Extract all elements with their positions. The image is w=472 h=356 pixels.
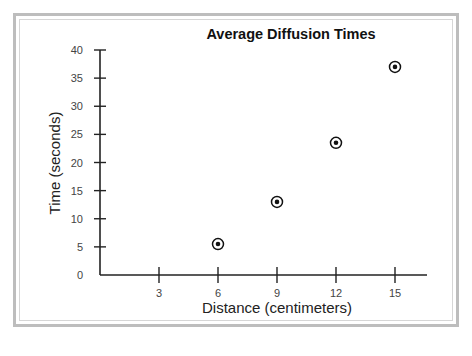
data-point-marker	[213, 239, 224, 250]
y-axis-label: Time (seconds)	[46, 112, 63, 215]
y-tick-label: 10	[71, 213, 83, 225]
x-tick-label: 3	[156, 287, 162, 299]
data-point-marker	[331, 137, 342, 148]
y-tick-label: 30	[71, 100, 83, 112]
x-tick-label: 15	[389, 287, 401, 299]
y-tick-label: 35	[71, 72, 83, 84]
data-points	[213, 61, 401, 249]
x-axis: 3691215	[100, 267, 427, 299]
data-point-marker	[272, 196, 283, 207]
x-tick-label: 9	[274, 287, 280, 299]
y-tick-label: 0	[77, 269, 83, 281]
x-tick-label: 6	[215, 287, 221, 299]
scatter-chart: Average Diffusion Times 0510152025303540…	[0, 0, 472, 356]
y-tick-label: 20	[71, 157, 83, 169]
y-tick-label: 5	[77, 241, 83, 253]
y-tick-label: 15	[71, 185, 83, 197]
y-tick-label: 40	[71, 44, 83, 56]
data-point-marker	[390, 61, 401, 72]
x-axis-label: Distance (centimeters)	[202, 299, 352, 316]
y-axis: 0510152025303540	[71, 44, 106, 281]
chart-title: Average Diffusion Times	[206, 26, 375, 42]
y-tick-label: 25	[71, 128, 83, 140]
x-tick-label: 12	[330, 287, 342, 299]
